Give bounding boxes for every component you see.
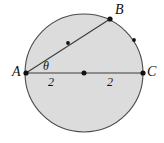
label-measure-left: 2 — [48, 76, 54, 88]
point-b — [107, 16, 112, 21]
point-arc-tick — [132, 38, 136, 42]
label-point-a: A — [12, 65, 21, 79]
point-center — [82, 71, 87, 76]
point-c — [140, 70, 145, 75]
label-point-b: B — [115, 3, 124, 17]
figure-canvas — [0, 0, 164, 143]
label-point-c: C — [147, 65, 156, 79]
point-chord-midpoint-tick — [66, 41, 70, 45]
geometry-figure: A B C θ 2 2 — [0, 0, 164, 143]
label-measure-right: 2 — [107, 76, 113, 88]
point-a — [23, 70, 28, 75]
label-angle-theta: θ — [43, 60, 49, 72]
